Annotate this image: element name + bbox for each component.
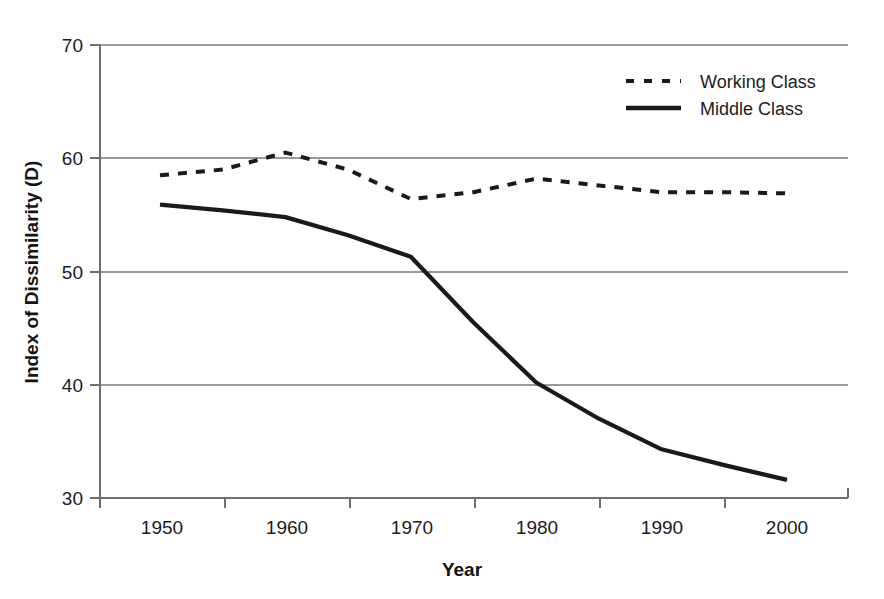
x-tick-label-1950: 1950: [141, 517, 183, 538]
legend-label-working-class: Working Class: [700, 72, 816, 92]
y-tick-label-50: 50: [62, 262, 83, 283]
legend-label-middle-class: Middle Class: [700, 99, 803, 119]
x-tick-label-1960: 1960: [266, 517, 308, 538]
x-tick-label-1970: 1970: [391, 517, 433, 538]
x-tick-label-2000: 2000: [766, 517, 808, 538]
x-axis-title: Year: [442, 559, 483, 580]
y-axis-title: Index of Dissimilarity (D): [21, 161, 42, 384]
x-tick-label-1980: 1980: [516, 517, 558, 538]
line-chart: 70 60 50 40 30 1950 1960 1970 1980 1990 …: [0, 0, 884, 599]
x-tick-label-1990: 1990: [641, 517, 683, 538]
y-tick-label-60: 60: [62, 148, 83, 169]
y-tick-label-40: 40: [62, 375, 83, 396]
y-tick-label-30: 30: [62, 488, 83, 509]
y-tick-label-70: 70: [62, 35, 83, 56]
chart-figure: 70 60 50 40 30 1950 1960 1970 1980 1990 …: [0, 0, 884, 599]
